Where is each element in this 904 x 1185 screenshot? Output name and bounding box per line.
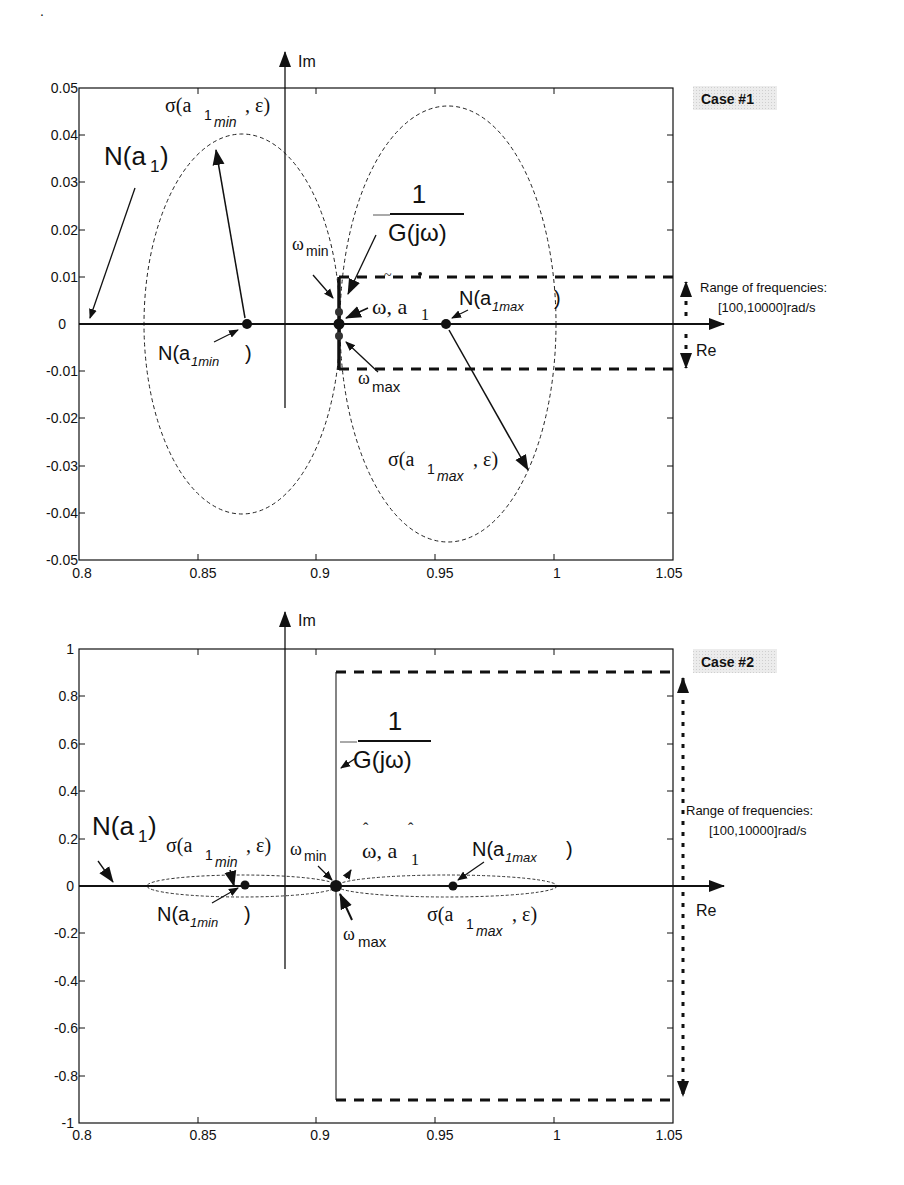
svg-text:max: max xyxy=(476,923,503,939)
label-omega-hat-a1-hat: ˆ ˆ ω, a 1 xyxy=(362,820,419,868)
svg-text:-0.4: -0.4 xyxy=(54,973,78,989)
svg-text:0.8: 0.8 xyxy=(59,688,79,704)
y-tick-labels: 1 0.8 0.6 0.4 0.2 0 -0.2 -0.4 -0.6 -0.8 … xyxy=(54,641,78,1131)
svg-text:0: 0 xyxy=(66,878,74,894)
arrow-omega-a1 xyxy=(346,308,368,318)
svg-text:σ(a: σ(a xyxy=(427,903,453,926)
svg-text:1: 1 xyxy=(427,461,435,477)
svg-text:σ(a: σ(a xyxy=(165,94,191,117)
svg-text:, ε): , ε) xyxy=(473,448,498,471)
page-dot: . xyxy=(40,3,44,19)
svg-text:σ(a: σ(a xyxy=(388,448,414,471)
svg-text:): ) xyxy=(245,342,252,364)
svg-text:1: 1 xyxy=(412,179,426,209)
svg-text:0.95: 0.95 xyxy=(426,1127,453,1143)
im-axis-label: Im xyxy=(298,612,316,629)
case-badge-1: Case #1 xyxy=(701,91,754,107)
im-axis-label: Im xyxy=(298,53,316,70)
svg-text:max: max xyxy=(358,933,387,950)
svg-text:max: max xyxy=(437,468,464,484)
arrow-N-a1min xyxy=(212,888,238,903)
label-sigma-max: σ(a 1 max , ε) xyxy=(427,903,537,939)
svg-text:-0.6: -0.6 xyxy=(54,1020,78,1036)
svg-text:N(a: N(a xyxy=(158,342,191,364)
hat-dot xyxy=(418,272,422,276)
svg-text:1: 1 xyxy=(205,847,213,863)
svg-text:, ε): , ε) xyxy=(246,834,271,857)
svg-text:Range of frequencies:: Range of frequencies: xyxy=(700,280,827,295)
hat-a1: ˆ xyxy=(408,820,414,837)
label-N-a1: N(a 1 ) xyxy=(104,141,169,176)
case-badge-2: Case #2 xyxy=(701,654,754,670)
svg-text:0.4: 0.4 xyxy=(59,783,79,799)
svg-text:1: 1 xyxy=(388,706,402,736)
N-a1max-point xyxy=(441,319,451,329)
svg-text:0.05: 0.05 xyxy=(51,80,78,96)
svg-text:): ) xyxy=(244,903,251,925)
svg-text:1min: 1min xyxy=(190,915,218,930)
svg-text:0.8: 0.8 xyxy=(72,1127,92,1143)
arrow-omega-hat xyxy=(346,870,351,878)
arrow-N-a1max xyxy=(458,862,484,880)
svg-text:Range of frequencies:: Range of frequencies: xyxy=(686,803,813,818)
arrow-omega-min xyxy=(318,866,332,880)
svg-text:): ) xyxy=(160,141,169,171)
svg-text:ω: ω xyxy=(292,234,304,254)
svg-text:ω: ω xyxy=(290,839,302,859)
svg-text:0.8: 0.8 xyxy=(72,565,92,581)
x-tick-labels: 0.8 0.85 0.9 0.95 1 1.05 xyxy=(72,565,683,581)
svg-text:[100,10000]rad/s: [100,10000]rad/s xyxy=(718,300,816,315)
arrow-neg-inv-G xyxy=(348,235,376,294)
svg-text:0.85: 0.85 xyxy=(189,1127,216,1143)
arrow-N-a1min xyxy=(214,330,238,342)
svg-text:min: min xyxy=(214,114,237,130)
svg-text:0.03: 0.03 xyxy=(51,174,78,190)
chart-case-1: 0.05 0.04 0.03 0.02 0.01 0 -0.01 -0.02 -… xyxy=(46,52,827,581)
re-axis-label: Re xyxy=(696,902,717,919)
range-label: Range of frequencies: [100,10000]rad/s xyxy=(686,803,813,838)
label-N-a1min: N(a 1min ) xyxy=(158,342,252,369)
arrow-sigma-min xyxy=(216,150,245,318)
svg-text:1: 1 xyxy=(150,157,159,176)
svg-text:[100,10000]rad/s: [100,10000]rad/s xyxy=(709,823,807,838)
arrow-omega-max xyxy=(340,894,352,920)
N-a1min-point xyxy=(242,319,252,329)
svg-text:ω, a: ω, a xyxy=(362,838,397,863)
svg-text:0.95: 0.95 xyxy=(426,565,453,581)
svg-text:ω, a: ω, a xyxy=(372,294,407,319)
svg-text:ω: ω xyxy=(358,368,370,388)
intersection-point xyxy=(330,880,342,892)
label-omega-min: ω min xyxy=(292,234,329,259)
svg-text:N(a: N(a xyxy=(92,811,134,841)
chart-case-2: 1 0.8 0.6 0.4 0.2 0 -0.2 -0.4 -0.6 -0.8 … xyxy=(54,612,813,1143)
svg-text:max: max xyxy=(372,378,401,395)
arrow-N-a1max xyxy=(452,310,468,318)
svg-text:1: 1 xyxy=(553,1127,561,1143)
label-N-a1max: N(a 1max ) xyxy=(472,838,573,865)
hat-omega: ˆ xyxy=(363,820,369,837)
svg-text:0.2: 0.2 xyxy=(59,831,79,847)
svg-text:1.05: 1.05 xyxy=(655,565,682,581)
svg-text:-0.01: -0.01 xyxy=(46,363,78,379)
label-omega-max: ω max xyxy=(343,924,387,950)
svg-text:0.04: 0.04 xyxy=(51,127,78,143)
re-axis-label: Re xyxy=(696,342,717,359)
arrow-sigma-min xyxy=(230,870,234,886)
svg-text:0: 0 xyxy=(58,316,66,332)
svg-text:σ(a: σ(a xyxy=(166,834,192,857)
label-neg-inv-G: 1 G(jω) xyxy=(373,179,464,246)
svg-text:, ε): , ε) xyxy=(512,903,537,926)
svg-text:1: 1 xyxy=(553,565,561,581)
label-omega-max: ω max xyxy=(358,368,401,395)
svg-text:N(a: N(a xyxy=(472,838,505,860)
label-N-a1max: N(a 1max ) xyxy=(459,287,561,314)
svg-text:G(jω): G(jω) xyxy=(353,746,412,773)
svg-text:N(a: N(a xyxy=(459,287,492,309)
x-tick-labels: 0.8 0.85 0.9 0.95 1 1.05 xyxy=(72,1127,683,1143)
svg-text:-0.02: -0.02 xyxy=(46,410,78,426)
svg-text:-0.2: -0.2 xyxy=(54,925,78,941)
svg-text:1: 1 xyxy=(138,827,147,846)
svg-text:min: min xyxy=(304,848,327,864)
label-sigma-min: σ(a 1 min , ε) xyxy=(166,834,271,870)
svg-text:N(a: N(a xyxy=(104,141,146,171)
